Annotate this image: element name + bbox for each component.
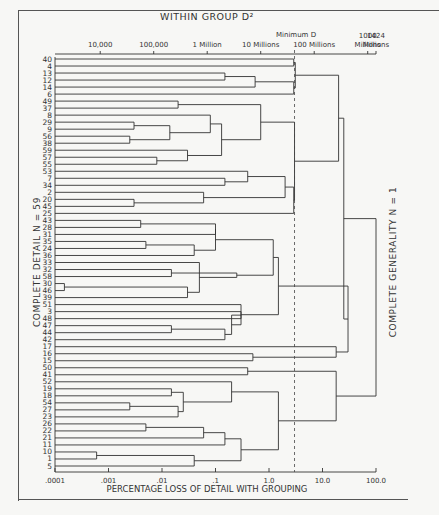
- dendrogram-links: [55, 57, 376, 472]
- dendrogram-link: [171, 273, 236, 277]
- dendrogram-link: [171, 392, 183, 411]
- dendrogram-link: [55, 192, 204, 203]
- dendrogram-link: [55, 284, 64, 291]
- dendrogram-link: [55, 59, 294, 66]
- dendrogram-link: [55, 241, 146, 248]
- top-axis-title: WITHIN GROUP D²: [160, 11, 254, 22]
- dendrogram-link: [55, 354, 253, 361]
- dendrogram-link: [232, 392, 279, 450]
- dendrogram-link: [55, 326, 171, 333]
- dendrogram-link: [55, 455, 194, 466]
- dendrogram-link: [55, 368, 248, 375]
- left-side-label: COMPLETE DETAIL N = 59: [32, 197, 42, 327]
- dendrogram-link: [55, 82, 294, 94]
- dendrogram-link: [55, 424, 146, 431]
- top-tick-label: 1424: [367, 32, 385, 40]
- dendrogram-link: [55, 312, 241, 319]
- top-tick-label: 100,000: [139, 41, 168, 49]
- dendrogram-link: [55, 263, 199, 293]
- dendrogram-link: [55, 224, 216, 235]
- bottom-tick-label: .0001: [45, 477, 65, 485]
- dendrogram-link: [194, 439, 241, 461]
- threshold-label: Minimum D: [276, 31, 316, 39]
- dendrogram-link: [55, 122, 134, 129]
- dendrogram-link: [55, 347, 336, 358]
- dendrogram-link: [55, 245, 194, 256]
- dendrogram-link: [55, 433, 225, 445]
- dendrogram-link: [55, 136, 130, 143]
- dendrogram-link: [55, 187, 294, 213]
- dendrogram-link: [194, 229, 215, 250]
- right-side-label: COMPLETE GENERALITY N = 1: [388, 187, 398, 338]
- top-tick-label: 1 Million: [193, 41, 222, 49]
- dendrogram-link: [130, 126, 170, 140]
- dendrogram-link: [55, 403, 130, 410]
- dendrogram-link: [55, 287, 188, 298]
- dendrogram-link: [55, 178, 225, 185]
- dendrogram-link: [55, 101, 178, 108]
- dendrogram-link: [55, 171, 248, 182]
- bottom-axis: .0001.001.01.11.010.0100.0: [45, 468, 386, 485]
- top-tick-label: 100 Millions: [293, 41, 335, 49]
- dendrogram-link: [55, 452, 97, 459]
- leaf-labels: 4041312146493782995638595755537342204525…: [42, 55, 52, 471]
- top-axis: 10,000100,0001 Million10 Millions100 Mil…: [55, 32, 389, 54]
- dendrogram-link: [55, 305, 241, 325]
- dendrogram-link: [295, 75, 339, 161]
- dendrogram-link: [178, 105, 261, 140]
- dendrogram-link: [55, 270, 171, 277]
- dendrogram-link: [55, 406, 178, 417]
- dendrogram-link: [55, 220, 141, 227]
- top-tick-label: 10 Millions: [242, 41, 280, 49]
- bottom-tick-label: 100.0: [366, 477, 386, 485]
- dendrogram-link: [248, 371, 336, 421]
- x-axis-label: PERCENTAGE LOSS OF DETAIL WITH GROUPING: [107, 484, 308, 494]
- top-tick-label: 10,000: [88, 41, 113, 49]
- dendrogram-link: [55, 150, 188, 161]
- bottom-tick-label: 10.0: [315, 477, 331, 485]
- dendrogram-link: [261, 122, 295, 200]
- top-tick-label: Millions: [363, 41, 390, 49]
- dendrogram-link: [204, 177, 285, 198]
- dendrogram-link: [55, 382, 232, 402]
- leaf-label: 5: [47, 462, 52, 471]
- dendrogram-link: [278, 286, 348, 352]
- dendrogram-link: [336, 219, 376, 396]
- dendrogram-link: [55, 73, 225, 80]
- dendrogram-link: [55, 115, 210, 133]
- dendrogram-link: [55, 427, 204, 438]
- dendrogram-link: [55, 199, 134, 206]
- dendrogram-link: [188, 124, 222, 156]
- dendrogram-link: [216, 240, 274, 276]
- dendrogram-link: [55, 389, 171, 396]
- dendrogram-link: [55, 329, 225, 340]
- dendrogram-link: [55, 157, 157, 164]
